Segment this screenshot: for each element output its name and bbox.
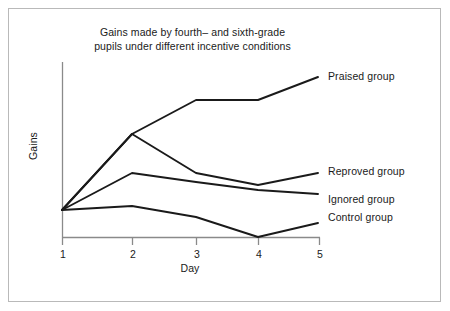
x-tick-label-2: 2: [123, 248, 143, 260]
x-tick-label-3: 3: [187, 248, 207, 260]
x-tick-label-1: 1: [53, 248, 73, 260]
x-axis-label: Day: [150, 262, 230, 274]
chart-title: Gains made by fourth– and sixth-grade pu…: [60, 26, 325, 53]
chart-title-line-2: pupils under different incentive conditi…: [60, 40, 325, 54]
y-axis-label: Gains: [27, 111, 39, 181]
series-line-ignored-group: [62, 173, 318, 210]
series-label-praised-group: Praised group: [328, 70, 395, 82]
x-axis-ticks: [63, 238, 320, 246]
series-line-control-group: [62, 206, 318, 237]
x-tick-label-4: 4: [249, 248, 269, 260]
series-line-reproved-group: [62, 134, 318, 210]
chart-page: Gains made by fourth– and sixth-grade pu…: [0, 0, 450, 311]
series-label-ignored-group: Ignored group: [328, 193, 395, 205]
series-label-reproved-group: Reproved group: [328, 165, 405, 177]
chart-title-line-1: Gains made by fourth– and sixth-grade: [60, 26, 325, 40]
series-label-control-group: Control group: [328, 211, 393, 223]
x-tick-label-5: 5: [310, 248, 330, 260]
